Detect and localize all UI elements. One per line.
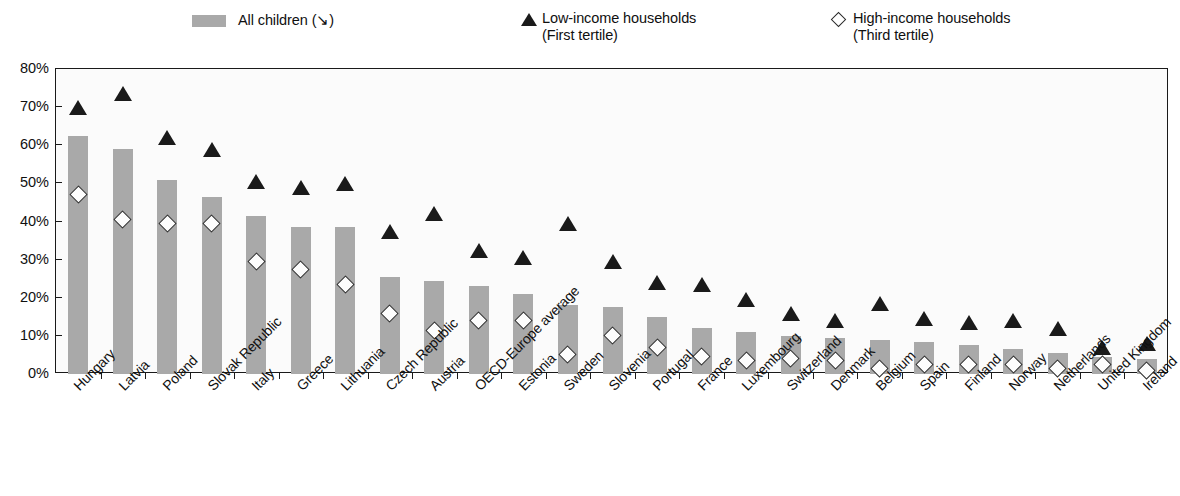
bar-all-children	[380, 277, 400, 374]
bar-all-children	[68, 136, 88, 374]
bar-swatch-icon	[192, 15, 226, 27]
diamond-marker-icon	[831, 12, 847, 28]
marker-low-income-triangle	[1049, 321, 1067, 336]
bar-all-children	[335, 227, 355, 374]
marker-low-income-triangle	[381, 224, 399, 239]
legend-item-all-children: All children (↘)	[192, 12, 334, 29]
y-axis-tick-label: 20%	[0, 290, 49, 304]
bar-all-children	[469, 286, 489, 374]
marker-low-income-triangle	[960, 315, 978, 330]
y-axis-tick-mark	[55, 144, 62, 145]
y-axis-tick-mark	[55, 335, 62, 336]
plot-series-container	[56, 69, 1167, 372]
y-axis-tick-label: 70%	[0, 99, 49, 113]
marker-low-income-triangle	[514, 250, 532, 265]
legend-label-high-income-line2: (Third tertile)	[853, 27, 1010, 44]
y-axis-tick-label: 50%	[0, 175, 49, 189]
marker-low-income-triangle	[559, 216, 577, 231]
y-axis-tick-label: 40%	[0, 214, 49, 228]
marker-low-income-triangle	[158, 130, 176, 145]
x-axis-labels: HungaryLatviaPolandSlovak RepublicItalyG…	[0, 373, 1176, 496]
legend-label-high-income-group: High-income households (Third tertile)	[853, 10, 1010, 44]
triangle-marker-icon	[521, 13, 537, 26]
marker-low-income-triangle	[915, 311, 933, 326]
bar-all-children	[113, 149, 133, 374]
y-axis-tick-label: 30%	[0, 252, 49, 266]
marker-low-income-triangle	[470, 243, 488, 258]
bar-all-children	[558, 305, 578, 374]
marker-low-income-triangle	[247, 174, 265, 189]
y-axis-tick-mark	[55, 106, 62, 107]
y-axis-tick-mark	[55, 68, 62, 69]
legend-item-low-income: Low-income households (First tertile)	[521, 10, 696, 44]
marker-low-income-triangle	[69, 100, 87, 115]
legend-label-low-income-group: Low-income households (First tertile)	[542, 10, 696, 44]
y-axis-tick-mark	[55, 221, 62, 222]
marker-low-income-triangle	[604, 254, 622, 269]
chart-plot-area	[55, 68, 1168, 373]
marker-low-income-triangle	[693, 277, 711, 292]
bar-all-children	[291, 227, 311, 374]
legend-label-all-children: All children (↘)	[238, 12, 334, 29]
marker-low-income-triangle	[203, 142, 221, 157]
marker-low-income-triangle	[425, 206, 443, 221]
y-axis-tick-label: 60%	[0, 137, 49, 151]
y-axis-tick-mark	[55, 182, 62, 183]
legend-label-low-income-line1: Low-income households	[542, 10, 696, 27]
legend-item-high-income: High-income households (Third tertile)	[833, 10, 1010, 44]
marker-low-income-triangle	[737, 292, 755, 307]
legend-label-high-income-line1: High-income households	[853, 10, 1010, 27]
chart-legend: All children (↘) Low-income households (…	[0, 0, 1176, 56]
marker-low-income-triangle	[292, 180, 310, 195]
legend-label-low-income-line2: (First tertile)	[542, 27, 696, 44]
marker-low-income-triangle	[336, 176, 354, 191]
marker-low-income-triangle	[114, 86, 132, 101]
y-axis: 80%70%60%50%40%30%20%10%0%	[0, 68, 49, 373]
y-axis-tick-mark	[55, 259, 62, 260]
marker-low-income-triangle	[1004, 313, 1022, 328]
marker-low-income-triangle	[826, 313, 844, 328]
marker-low-income-triangle	[871, 296, 889, 311]
y-axis-tick-mark	[55, 297, 62, 298]
marker-low-income-triangle	[782, 306, 800, 321]
bar-all-children	[157, 180, 177, 374]
marker-low-income-triangle	[648, 275, 666, 290]
y-axis-tick-label: 10%	[0, 328, 49, 342]
y-axis-tick-label: 80%	[0, 61, 49, 75]
